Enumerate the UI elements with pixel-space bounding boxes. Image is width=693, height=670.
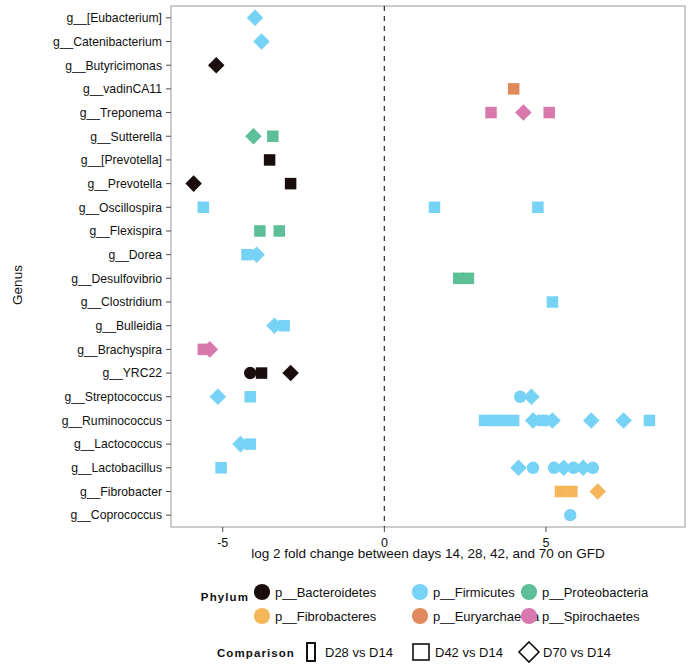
data-point	[244, 438, 256, 450]
phylum-legend-label: p__Proteobacteria	[542, 585, 649, 600]
phylum-legend-label: p__Spirochaetes	[542, 609, 640, 624]
comparison-legend-label: D28 vs D14	[325, 645, 393, 660]
data-point	[485, 107, 497, 119]
y-tick-label: g__Clostridium	[81, 295, 162, 309]
data-point	[264, 154, 276, 166]
data-point	[278, 320, 290, 332]
y-tick-label: g__Treponema	[80, 106, 162, 120]
x-tick-label: -5	[217, 536, 228, 550]
data-point	[564, 509, 576, 521]
phylum-legend-swatch	[254, 608, 270, 624]
y-tick-label: g__Coprococcus	[71, 508, 162, 522]
y-tick-label: g__Fibrobacter	[80, 485, 162, 499]
y-tick-label: g__vadinCA11	[83, 82, 162, 96]
y-tick-label: g__Ruminococcus	[62, 414, 162, 428]
data-point	[244, 391, 256, 403]
comparison-legend-title: Comparison	[217, 647, 295, 659]
data-point	[244, 367, 256, 379]
y-tick-label: g__Bulleidia	[96, 319, 163, 333]
y-tick-label: g__Butyricimonas	[65, 59, 162, 73]
y-tick-label: g__Desulfovibrio	[71, 272, 162, 286]
data-point	[198, 202, 210, 214]
data-point	[644, 415, 656, 427]
data-point	[543, 107, 555, 119]
comparison-legend-label: D42 vs D14	[435, 645, 503, 660]
y-tick-label: g__Streptococcus	[64, 390, 162, 404]
y-tick-label: g__Oscillospira	[79, 201, 163, 215]
data-point	[285, 178, 297, 190]
data-point	[555, 486, 567, 498]
data-point	[256, 367, 268, 379]
data-point	[547, 296, 559, 308]
phylum-legend-swatch	[521, 584, 537, 600]
data-point	[566, 486, 578, 498]
phylum-legend-title: Phylum	[201, 591, 249, 603]
data-point	[532, 202, 544, 214]
figure-background	[0, 0, 693, 670]
phylum-legend-swatch	[412, 584, 428, 600]
y-tick-label: g__Dorea	[108, 248, 162, 262]
data-point	[508, 415, 519, 427]
y-tick-label: g__Sutterella	[90, 130, 162, 144]
data-point	[254, 225, 265, 237]
x-axis-title: log 2 fold change between days 14, 28, 4…	[251, 546, 605, 561]
scatter-plot: Genus g__[Eubacterium]g__Catenibacterium…	[0, 0, 693, 670]
data-point	[463, 273, 475, 285]
y-tick-label: g__Lactobacillus	[71, 461, 162, 475]
data-point	[429, 202, 441, 214]
data-point	[267, 131, 279, 143]
y-tick-label: g__[Eubacterium]	[66, 11, 162, 25]
y-tick-label: g__Lactococcus	[74, 437, 162, 451]
phylum-legend-swatch	[521, 608, 537, 624]
phylum-legend-label: p__Firmicutes	[433, 585, 515, 600]
y-tick-label: g__Brachyspira	[77, 343, 162, 357]
data-point	[587, 462, 599, 474]
data-point	[274, 225, 286, 237]
figure-container: Genus g__[Eubacterium]g__Catenibacterium…	[0, 0, 693, 670]
data-point	[508, 83, 519, 95]
comparison-legend-label: D70 vs D14	[543, 645, 611, 660]
phylum-legend-label: p__Bacteroidetes	[275, 585, 377, 600]
y-tick-label: g__Catenibacterium	[53, 35, 162, 49]
phylum-legend-swatch	[412, 608, 428, 624]
y-tick-label: g__YRC22	[102, 366, 162, 380]
y-tick-label: g__Prevotella	[87, 177, 162, 191]
y-tick-label: g__[Prevotella]	[81, 153, 162, 167]
data-point	[527, 462, 539, 474]
phylum-legend-label: p__Fibrobacteres	[275, 609, 377, 624]
y-tick-label: g__Flexispira	[90, 224, 163, 238]
data-point	[215, 462, 227, 474]
phylum-legend-swatch	[254, 584, 270, 600]
y-axis-title: Genus	[10, 265, 25, 305]
